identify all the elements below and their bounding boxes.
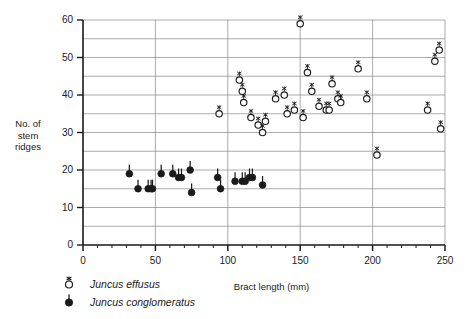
data-point-juncus-effusus bbox=[255, 117, 261, 129]
data-point-juncus-conglomeratus bbox=[158, 165, 165, 177]
legend-item-juncus-conglomeratus: Juncus conglomeratus bbox=[62, 293, 322, 311]
data-point-juncus-effusus bbox=[297, 15, 303, 27]
data-point-juncus-effusus bbox=[304, 64, 310, 76]
data-point-juncus-effusus bbox=[424, 102, 430, 114]
data-point-juncus-effusus bbox=[291, 102, 297, 114]
data-point-juncus-conglomeratus bbox=[232, 172, 239, 184]
x-tick-label-200: 200 bbox=[353, 256, 393, 266]
data-point-juncus-conglomeratus bbox=[135, 180, 142, 192]
data-point-juncus-conglomeratus bbox=[126, 165, 133, 177]
open-circle-marker-icon bbox=[62, 275, 76, 291]
x-tick-label-100: 100 bbox=[208, 256, 248, 266]
data-point-juncus-effusus bbox=[364, 90, 370, 102]
y-tick-label-30: 30 bbox=[47, 128, 73, 138]
legend-item-juncus-effusus: Juncus effusus bbox=[62, 275, 322, 293]
data-point-juncus-conglomeratus bbox=[187, 161, 194, 173]
y-tick-label-40: 40 bbox=[47, 90, 73, 100]
y-tick-label-0: 0 bbox=[47, 240, 73, 250]
data-point-juncus-effusus bbox=[284, 105, 290, 117]
data-point-juncus-effusus bbox=[309, 83, 315, 95]
x-tick-label-50: 50 bbox=[135, 256, 175, 266]
filled-circle-marker-icon bbox=[62, 293, 76, 309]
data-point-juncus-effusus bbox=[436, 42, 442, 54]
data-point-juncus-conglomeratus bbox=[169, 165, 176, 177]
y-tick-label-50: 50 bbox=[47, 53, 73, 63]
data-point-juncus-conglomeratus bbox=[188, 184, 195, 196]
data-point-juncus-conglomeratus bbox=[149, 180, 156, 192]
x-tick-label-250: 250 bbox=[425, 256, 465, 266]
y-tick-label-20: 20 bbox=[47, 165, 73, 175]
data-point-juncus-effusus bbox=[374, 147, 380, 159]
data-point-juncus-effusus bbox=[432, 53, 438, 65]
data-point-juncus-conglomeratus bbox=[214, 169, 221, 181]
data-point-juncus-effusus bbox=[262, 113, 268, 125]
data-point-juncus-effusus bbox=[300, 109, 306, 121]
y-tick-label-10: 10 bbox=[47, 203, 73, 213]
data-point-juncus-effusus bbox=[316, 98, 322, 110]
chart-figure: No. of stem ridges 0 10 20 30 40 50 60 0… bbox=[0, 0, 473, 319]
x-tick-label-0: 0 bbox=[63, 256, 103, 266]
data-point-juncus-effusus bbox=[248, 109, 254, 121]
data-point-juncus-effusus bbox=[272, 90, 278, 102]
y-tick-label-60: 60 bbox=[47, 15, 73, 25]
scatter-plot-area bbox=[0, 0, 473, 319]
data-point-juncus-conglomeratus bbox=[259, 176, 266, 188]
x-tick-label-150: 150 bbox=[280, 256, 320, 266]
data-point-juncus-effusus bbox=[329, 75, 335, 87]
legend-label-juncus-conglomeratus: Juncus conglomeratus bbox=[90, 296, 195, 308]
data-point-juncus-effusus bbox=[355, 60, 361, 72]
data-point-juncus-conglomeratus bbox=[217, 180, 224, 192]
data-point-juncus-effusus bbox=[236, 72, 242, 84]
data-point-juncus-effusus bbox=[216, 105, 222, 117]
data-point-juncus-effusus bbox=[437, 120, 443, 132]
data-point-juncus-effusus bbox=[281, 87, 287, 99]
legend-label-juncus-effusus: Juncus effusus bbox=[90, 278, 160, 290]
data-point-juncus-effusus bbox=[241, 94, 247, 106]
data-point-juncus-effusus bbox=[239, 83, 245, 95]
chart-legend: Juncus effusus Juncus conglomeratus bbox=[62, 275, 322, 311]
